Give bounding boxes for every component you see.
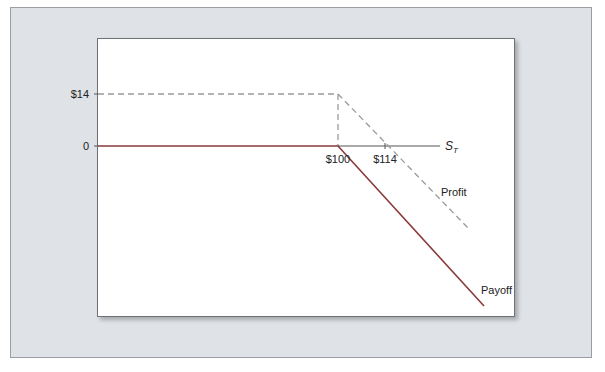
payoff-label: Payoff — [481, 284, 513, 296]
y-label-0: 0 — [83, 140, 89, 152]
payoff-profit-chart: $14 0 $100 $114 ST Profit Payoff — [0, 0, 605, 372]
payoff-line — [98, 146, 484, 306]
profit-line — [98, 94, 469, 229]
axis-label-st: ST — [445, 139, 459, 155]
x-label-100: $100 — [326, 153, 350, 165]
x-label-114: $114 — [373, 153, 397, 165]
y-label-14: $14 — [71, 88, 89, 100]
profit-label: Profit — [441, 186, 467, 198]
